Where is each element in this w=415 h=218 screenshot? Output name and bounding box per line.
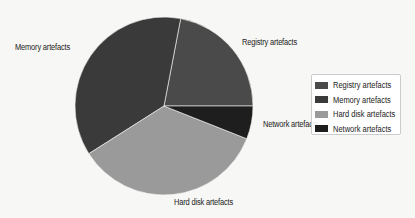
legend: Registry artefacts Memory artefacts Hard… <box>311 74 401 135</box>
pie-slices <box>75 17 253 195</box>
legend-swatch <box>315 82 328 89</box>
legend-label: Registry artefacts <box>333 80 391 90</box>
label-network: Network artefacts <box>263 119 318 129</box>
legend-label: Network artefacts <box>333 124 391 134</box>
legend-label: Hard disk artefacts <box>333 109 395 119</box>
legend-item-registry: Registry artefacts <box>315 78 397 93</box>
legend-item-network: Network artefacts <box>315 122 397 137</box>
label-memory: Memory artefacts <box>15 42 70 52</box>
legend-swatch <box>315 96 328 103</box>
label-registry: Registry artefacts <box>242 37 297 47</box>
legend-label: Memory artefacts <box>333 95 391 105</box>
legend-item-hard-disk: Hard disk artefacts <box>315 107 397 122</box>
legend-swatch <box>315 111 328 118</box>
legend-item-memory: Memory artefacts <box>315 93 397 108</box>
label-hard-disk: Hard disk artefacts <box>174 197 233 207</box>
legend-swatch <box>315 125 328 132</box>
